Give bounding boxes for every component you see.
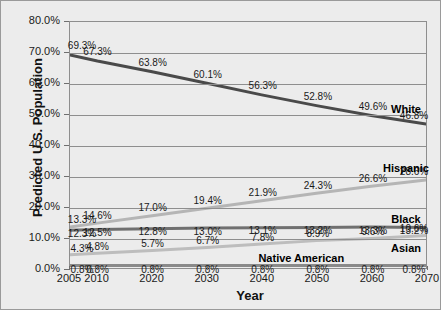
- data-point-label: 9.6%: [362, 226, 385, 237]
- chart-container: Predicted U.S. Population 0.0%10.0%20.0%…: [0, 0, 441, 310]
- series-name-label-black: Black: [391, 213, 420, 225]
- x-axis-tick-label: 2040: [250, 272, 274, 284]
- x-axis-tick-label: 2005: [57, 272, 81, 284]
- x-axis-tick-mark: [207, 266, 208, 270]
- gridline: [70, 208, 426, 209]
- data-point-label: 56.3%: [249, 80, 277, 91]
- x-axis-tick-mark: [427, 266, 428, 270]
- x-axis-tick-label: 2010: [84, 272, 108, 284]
- series-name-label-white: White: [391, 103, 421, 115]
- x-axis-tick-label: 2020: [139, 272, 163, 284]
- data-point-label: 19.4%: [194, 194, 222, 205]
- data-point-label: 67.3%: [83, 46, 111, 57]
- data-point-label: 52.8%: [304, 91, 332, 102]
- x-axis-tick-mark: [69, 266, 70, 270]
- data-point-label: 8.9%: [306, 228, 329, 239]
- y-axis-tick-label: 40.0%: [29, 138, 60, 150]
- plot-area: 69.3%67.3%63.8%60.1%56.3%52.8%49.6%46.8%…: [69, 21, 427, 269]
- data-point-label: 4.8%: [86, 241, 109, 252]
- data-point-label: 6.7%: [196, 235, 219, 246]
- y-axis-tick-label: 10.0%: [29, 231, 60, 243]
- gridline: [70, 53, 426, 54]
- data-point-label: 63.8%: [138, 57, 166, 68]
- gridline: [70, 115, 426, 116]
- x-axis-tick-label: 2070: [415, 272, 439, 284]
- y-axis-tick-label: 20.0%: [29, 200, 60, 212]
- data-point-label: 5.7%: [141, 238, 164, 249]
- series-name-label-hispanic: Hispanic: [383, 162, 429, 174]
- y-axis-tick-label: 80.0%: [29, 14, 60, 26]
- y-axis-tick-label: 60.0%: [29, 76, 60, 88]
- data-point-label: 17.0%: [138, 202, 166, 213]
- gridline: [70, 146, 426, 147]
- data-point-label: 7.8%: [251, 231, 274, 242]
- x-axis-tick-mark: [317, 266, 318, 270]
- data-point-label: 49.6%: [359, 101, 387, 112]
- series-name-label-asian: Asian: [391, 242, 421, 254]
- y-axis-tick-labels: 0.0%10.0%20.0%30.0%40.0%50.0%60.0%70.0%8…: [1, 21, 69, 269]
- x-axis-tick-mark: [372, 266, 373, 270]
- x-axis-tick-label: 2030: [194, 272, 218, 284]
- x-axis-tick-labels: 20052010202020302040205020602070: [69, 270, 427, 288]
- data-point-label: 24.3%: [304, 179, 332, 190]
- x-axis-tick-label: 2050: [305, 272, 329, 284]
- y-axis-tick-label: 50.0%: [29, 107, 60, 119]
- data-point-label: 14.6%: [83, 209, 111, 220]
- series-name-label-native-american: Native American: [258, 252, 344, 264]
- data-point-label: 60.1%: [194, 68, 222, 79]
- x-axis-title: Year: [69, 288, 431, 303]
- x-axis-tick-mark: [97, 266, 98, 270]
- data-point-label: 12.8%: [138, 226, 166, 237]
- y-axis-tick-label: 70.0%: [29, 45, 60, 57]
- x-axis-tick-mark: [152, 266, 153, 270]
- x-axis-tick-mark: [262, 266, 263, 270]
- x-axis-tick-label: 2060: [360, 272, 384, 284]
- y-axis-tick-label: 30.0%: [29, 169, 60, 181]
- gridline: [70, 239, 426, 240]
- data-point-label: 21.9%: [249, 187, 277, 198]
- data-point-label: 12.5%: [83, 227, 111, 238]
